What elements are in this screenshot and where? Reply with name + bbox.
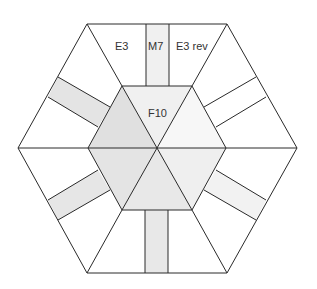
label-f10: F10	[148, 107, 167, 119]
spoke-bottom-left	[87, 210, 122, 273]
spoke-top-left	[87, 24, 122, 86]
strip-top-m7	[146, 24, 169, 86]
label-m7: M7	[148, 40, 163, 52]
label-e3-rev: E3 rev	[176, 40, 208, 52]
spoke-top-right	[192, 24, 227, 86]
strip-bottom	[145, 210, 168, 273]
label-e3: E3	[115, 40, 128, 52]
spoke-bottom-right	[192, 210, 227, 273]
hexagon-quilt-diagram: E3 M7 E3 rev F10	[0, 0, 317, 289]
